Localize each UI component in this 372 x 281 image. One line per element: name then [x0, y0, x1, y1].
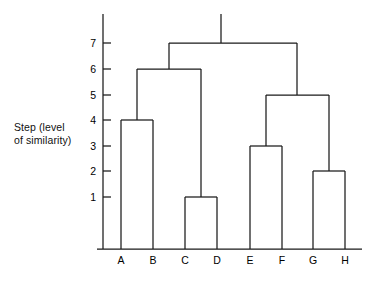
y-axis-label: Step (level of similarity) — [14, 121, 92, 147]
y-tick-label-7: 7 — [90, 37, 96, 49]
leaf-label-E: E — [246, 254, 253, 266]
dendrogram-figure: Step (level of similarity) — [0, 0, 372, 281]
y-axis-label-line1: Step (level — [14, 121, 92, 134]
y-tick-label-2: 2 — [90, 165, 96, 177]
leaf-label-D: D — [213, 254, 221, 266]
leaf-label-C: C — [181, 254, 189, 266]
y-tick-label-6: 6 — [90, 63, 96, 75]
y-tick-label-5: 5 — [90, 89, 96, 101]
leaf-label-H: H — [341, 254, 349, 266]
y-axis-label-line2: of similarity) — [14, 134, 92, 147]
leaf-label-F: F — [279, 254, 285, 266]
leaf-label-A: A — [117, 254, 124, 266]
leaf-label-B: B — [149, 254, 156, 266]
leaf-label-G: G — [309, 254, 317, 266]
y-tick-label-1: 1 — [90, 191, 96, 203]
